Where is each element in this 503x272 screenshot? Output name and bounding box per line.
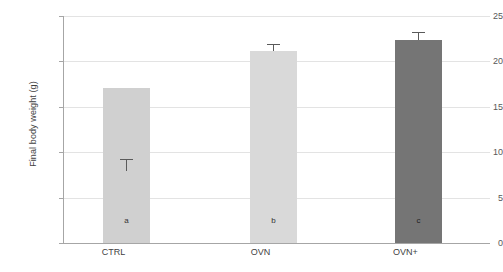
error-bar-ctrl bbox=[126, 159, 127, 172]
x-tick-label-ovn-plus: OVN+ bbox=[371, 248, 440, 258]
x-axis-line bbox=[63, 243, 490, 244]
error-bar-cap-ctrl bbox=[120, 159, 133, 160]
bar-label-ctrl: a bbox=[103, 217, 150, 225]
y-axis-line bbox=[63, 16, 64, 244]
bar-chart: Final body weight (g) 0 5 10 15 20 25 a … bbox=[0, 0, 503, 272]
error-bar-cap-ovn bbox=[267, 44, 280, 45]
bar-ovn[interactable]: b bbox=[250, 51, 297, 243]
error-bar-ovn bbox=[273, 44, 274, 51]
x-tick-label-ovn: OVN bbox=[226, 248, 295, 258]
bar-label-ovn-plus: c bbox=[395, 217, 442, 225]
error-bar-ovn-plus bbox=[418, 32, 419, 40]
bar-label-ovn: b bbox=[250, 217, 297, 225]
plot-area: a b c bbox=[63, 16, 490, 243]
x-tick-label-ctrl: CTRL bbox=[79, 248, 148, 258]
error-bar-cap-ovn-plus bbox=[412, 32, 425, 33]
grid-line-25 bbox=[63, 16, 490, 17]
y-axis-title: Final body weight (g) bbox=[28, 44, 38, 204]
bar-ovn-plus[interactable]: c bbox=[395, 40, 442, 243]
